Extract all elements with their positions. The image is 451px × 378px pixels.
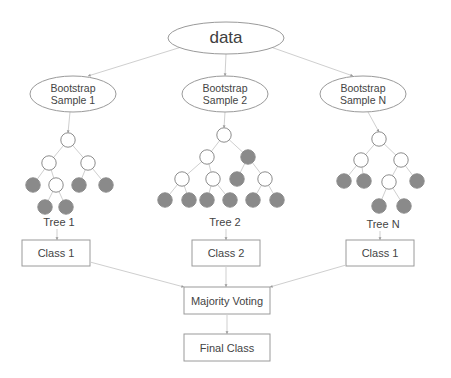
leaf-node-filled (397, 199, 411, 213)
leaf-node-filled (200, 193, 214, 207)
leaf-node-filled (182, 193, 196, 207)
data-node-label: data (209, 28, 242, 48)
bootstrap-sample-2-line1: Bootstrap (203, 82, 248, 94)
class-box-2-label: Class 2 (208, 247, 245, 260)
leaf-node-filled (99, 178, 113, 192)
leaf-node-filled (72, 178, 86, 192)
leaf-node-filled (223, 193, 237, 207)
leaf-node-filled (246, 193, 260, 207)
tree-node-empty (217, 128, 231, 142)
leaf-node-filled (270, 193, 284, 207)
tree-node-empty (354, 153, 368, 167)
bootstrap-sample-n-line1: Bootstrap (340, 82, 386, 94)
leaf-node-filled (59, 200, 73, 214)
leaf-node-filled (357, 174, 371, 188)
bootstrap-sample-1-label: Bootstrap Sample 1 (51, 82, 96, 106)
leaf-node-filled (38, 200, 52, 214)
diagram-graphics (0, 0, 451, 378)
leaf-node-filled (337, 174, 351, 188)
bootstrap-sample-2-line2: Sample 2 (203, 94, 248, 106)
edge-class-to-majority (90, 262, 184, 287)
tree-node-empty (394, 153, 408, 167)
tree-n-label: Tree N (366, 218, 399, 231)
class-box-1-label: Class 1 (38, 247, 75, 260)
bootstrap-sample-n-line2: Sample N (340, 94, 386, 106)
tree-node-empty (49, 178, 63, 192)
tree-node-empty (372, 132, 386, 146)
bootstrap-sample-2-label: Bootstrap Sample 2 (203, 82, 248, 106)
tree-1-label: Tree 1 (43, 216, 74, 229)
leaf-node-filled (372, 199, 386, 213)
bootstrap-sample-n-label: Bootstrap Sample N (340, 82, 386, 106)
class-box-n-label: Class 1 (362, 247, 399, 260)
edge-data-to-sample (225, 54, 226, 76)
tree-node-empty (81, 156, 95, 170)
leaf-node-filled (241, 150, 255, 164)
leaf-node-filled (158, 193, 172, 207)
tree-node-empty (200, 150, 214, 164)
edge-data-to-sample (88, 48, 180, 76)
tree-node-empty (42, 156, 56, 170)
bootstrap-sample-1-line2: Sample 1 (51, 94, 96, 106)
tree-node-empty (61, 133, 75, 147)
tree-node-empty (382, 175, 396, 189)
bootstrap-sample-1-line1: Bootstrap (51, 82, 96, 94)
edge-class-to-majority (270, 265, 346, 287)
tree-node-empty (258, 172, 272, 186)
tree-2-label: Tree 2 (209, 216, 240, 229)
edge-sample-to-tree (368, 112, 379, 132)
random-forest-diagram: data Bootstrap Sample 1 Bootstrap Sample… (0, 0, 451, 378)
majority-voting-label: Majority Voting (191, 294, 263, 307)
tree-node-empty (175, 172, 189, 186)
edge-data-to-sample (272, 48, 353, 76)
leaf-node-filled (230, 172, 244, 186)
final-class-label: Final Class (200, 341, 254, 354)
tree-node-empty (206, 172, 220, 186)
leaf-node-filled (26, 178, 40, 192)
leaf-node-filled (410, 174, 424, 188)
edge-sample-to-tree (68, 112, 70, 133)
